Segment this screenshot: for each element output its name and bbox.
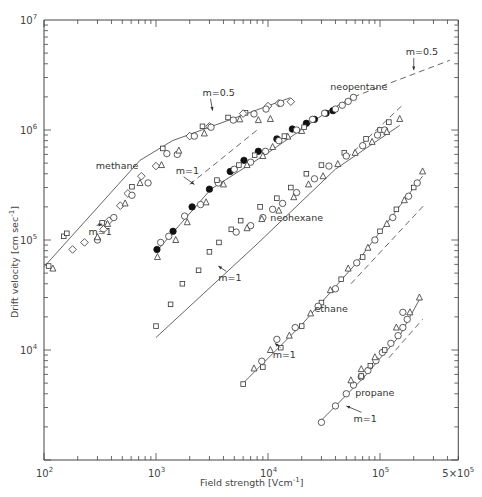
triangle-marker: [416, 294, 422, 300]
circle-marker: [208, 124, 214, 130]
triangle-marker: [255, 117, 261, 123]
square-marker: [226, 115, 231, 120]
methane-fit-line: [44, 98, 290, 267]
circle-marker: [343, 391, 349, 397]
neopentane-label: neopentane: [330, 81, 387, 92]
circle-marker: [332, 106, 338, 112]
circle-marker: [400, 309, 406, 315]
square-marker: [238, 218, 243, 223]
square-marker: [196, 268, 201, 273]
triangle-marker: [203, 199, 209, 205]
axes: 1021031041055×105104105106107: [20, 13, 474, 479]
square-marker: [364, 137, 369, 142]
circle-marker: [405, 193, 411, 199]
circle-marker: [293, 127, 299, 133]
x-tick-label: 5×105: [442, 466, 474, 479]
circle-marker: [390, 214, 396, 220]
square-marker: [302, 125, 307, 130]
circle-marker: [274, 336, 280, 342]
circle-marker: [374, 132, 380, 138]
square-marker: [299, 324, 304, 329]
circle-marker: [233, 229, 239, 235]
propane-label: propane: [355, 387, 394, 398]
x-tick-label: 103: [148, 466, 165, 479]
ethane-label: ethane: [314, 303, 347, 314]
circle-marker: [166, 233, 172, 239]
filled-circle-marker: [206, 186, 212, 192]
neohexane-fit-line: [156, 125, 400, 337]
slope-annotation: m=1: [176, 165, 199, 176]
square-marker: [360, 255, 365, 260]
triangle-marker: [393, 324, 399, 330]
circle-marker: [350, 94, 356, 100]
circle-marker: [230, 117, 236, 123]
square-marker: [207, 250, 212, 255]
circle-marker: [129, 192, 135, 198]
triangle-marker: [306, 181, 312, 187]
slope-annotation: m=1: [89, 226, 112, 237]
circle-marker: [278, 100, 284, 106]
chart-figure: 1021031041055×105104105106107 m=0.5m=1m=…: [0, 0, 482, 497]
square-marker: [180, 281, 185, 286]
square-marker: [319, 163, 324, 168]
square-marker: [258, 205, 263, 210]
square-marker: [130, 184, 135, 189]
x-tick-label: 102: [36, 466, 53, 479]
circle-marker: [343, 153, 349, 159]
square-marker: [368, 363, 373, 368]
ethane-dashed-line: [351, 205, 425, 284]
y-axis-title: Drift velocity [cm sec-1]: [8, 206, 20, 318]
square-marker: [154, 324, 159, 329]
x-tick-label: 105: [372, 466, 389, 479]
square-marker: [275, 196, 280, 201]
neopentane-m1-dashed-line: [190, 130, 257, 184]
arrowhead-icon: [210, 107, 213, 111]
circle-marker: [181, 213, 187, 219]
slope-annotation: m=1: [354, 413, 377, 424]
circle-marker: [332, 286, 338, 292]
square-marker: [394, 207, 399, 212]
circle-marker: [321, 110, 327, 116]
circle-marker: [326, 163, 332, 169]
triangle-marker: [251, 365, 257, 371]
triangle-marker: [267, 115, 273, 121]
square-marker: [168, 302, 173, 307]
triangle-marker: [201, 130, 207, 136]
propane-fit-line: [321, 298, 420, 421]
y-tick-label: 104: [20, 343, 38, 356]
circle-marker: [263, 106, 269, 112]
circle-marker: [292, 324, 298, 330]
square-marker: [252, 153, 257, 158]
filled-circle-marker: [189, 204, 195, 210]
triangle-marker: [137, 179, 143, 185]
y-tick-label: 105: [20, 233, 37, 246]
triangle-marker: [176, 147, 182, 153]
circle-marker: [145, 180, 151, 186]
triangle-marker: [345, 265, 351, 271]
circle-marker: [276, 137, 282, 143]
square-marker: [217, 240, 222, 245]
triangle-marker: [335, 161, 341, 167]
triangle-marker: [407, 309, 413, 315]
triangle-marker: [154, 254, 160, 260]
square-marker: [160, 146, 165, 151]
drift-velocity-plot: 1021031041055×105104105106107 m=0.5m=1m=…: [0, 0, 482, 497]
circle-marker: [400, 324, 406, 330]
triangle-marker: [397, 115, 403, 121]
x-axis-title: Field strength [Vcm-1]: [200, 476, 303, 488]
triangle-marker: [352, 149, 358, 155]
data-markers: [46, 94, 425, 425]
square-marker: [304, 171, 309, 176]
circle-marker: [388, 340, 394, 346]
square-marker: [215, 178, 220, 183]
triangle-marker: [159, 162, 165, 168]
square-marker: [46, 264, 51, 269]
circle-marker: [157, 239, 163, 245]
neohexane-label: neohexane: [270, 212, 323, 223]
circle-marker: [191, 133, 197, 139]
square-marker: [237, 163, 242, 168]
diamond-marker: [152, 162, 160, 170]
square-marker: [289, 185, 294, 190]
square-marker: [378, 229, 383, 234]
circle-marker: [395, 332, 401, 338]
